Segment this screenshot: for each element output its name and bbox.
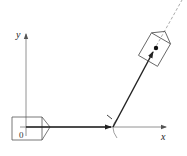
x-axis-label: x [160,131,166,142]
initial-body [12,117,50,140]
angle-tick-icon [107,115,112,119]
center-of-mass-dot [154,46,158,50]
diagram-canvas: y x 0 [0,0,187,156]
second-displacement-vector [113,52,153,127]
origin-label: 0 [19,130,24,140]
y-axis-label: y [15,29,21,40]
